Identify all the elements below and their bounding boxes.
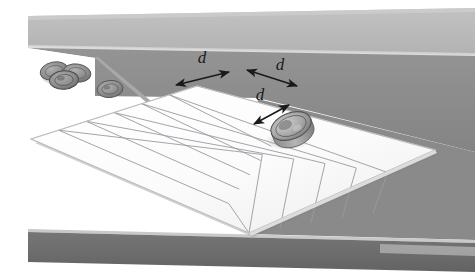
scene-canvas: d d d [0, 0, 475, 280]
figure-illustration: d d d [0, 0, 475, 280]
dimension-label-3: d [256, 85, 265, 104]
dimension-label-2: d [276, 55, 285, 74]
dimension-label-1: d [198, 48, 207, 67]
